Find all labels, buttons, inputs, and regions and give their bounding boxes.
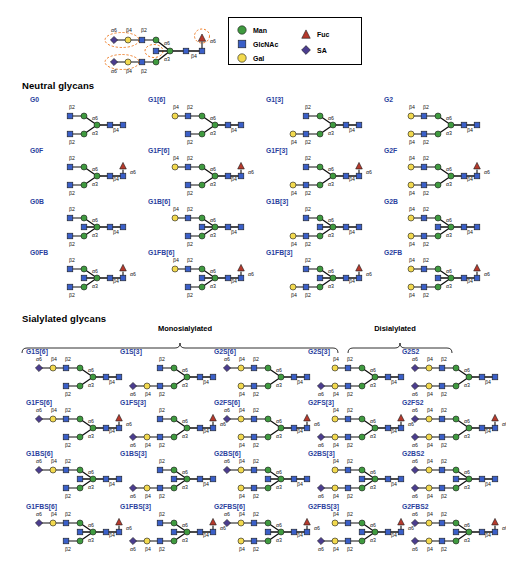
svg-text:α3: α3 — [464, 484, 470, 490]
svg-text:β4: β4 — [297, 379, 303, 385]
svg-text:α3: α3 — [210, 283, 216, 289]
svg-text:α6: α6 — [502, 421, 506, 427]
svg-text:β2: β2 — [441, 391, 447, 397]
glycan-G2BS6[interactable]: G2BS[6]β2β4α6β2β4α6α3β4 — [214, 450, 318, 498]
svg-text:α3: α3 — [182, 484, 188, 490]
glycan-G2S6[interactable]: G2S[6]β2β4α6β2β4α6α3β4 — [214, 348, 318, 396]
svg-text:β2: β2 — [69, 190, 75, 196]
glycan-G2BS3[interactable]: G2BS[3]β2β4β2β4α6α6α3β4 — [308, 450, 412, 498]
glycan-G1S6[interactable]: G1S[6]β2β4α6β2α6α3β4 — [26, 348, 130, 396]
svg-text:β2: β2 — [159, 458, 165, 464]
svg-text:α6: α6 — [92, 217, 98, 223]
svg-text:β2: β2 — [65, 442, 71, 448]
glycan-G2FBS6[interactable]: G2FBS[6]β2β4α6β2β4α6α3β4α6 — [214, 503, 318, 551]
svg-text:β4: β4 — [333, 442, 339, 448]
glycan-G2[interactable]: G2β2β4β2β4α6α3β4 — [384, 96, 488, 144]
svg-text:α6: α6 — [318, 442, 324, 448]
svg-text:β4: β4 — [409, 104, 415, 110]
svg-text:β2: β2 — [347, 546, 353, 552]
svg-text:β2: β2 — [69, 155, 75, 161]
legend-item-sa: SA — [300, 44, 327, 57]
glycan-G2BS2[interactable]: G2BS2β2β4α6β2β4α6α6α3β4 — [402, 450, 506, 498]
svg-text:β4: β4 — [409, 139, 415, 145]
glycan-G2F[interactable]: G2Fβ2β4β2β4α6α3β4α6 — [384, 147, 488, 195]
glycan-G0FB[interactable]: G0FBβ2β2α6α3β4α6 — [30, 249, 134, 297]
svg-text:α6: α6 — [130, 391, 136, 397]
glycan-G2FS6[interactable]: G2FS[6]β2β4α6β2β4α6α3β4α6 — [214, 399, 318, 447]
svg-text:β4: β4 — [113, 127, 119, 133]
glycan-G2FB[interactable]: G2FBβ2β4β2β4α6α3β4α6 — [384, 249, 488, 297]
svg-text:α6: α6 — [130, 271, 136, 277]
glycan-G1B3[interactable]: G1B[3]β2β2β4α6α3β4 — [266, 198, 370, 246]
svg-text:β2: β2 — [423, 257, 429, 263]
legend-label-fuc: Fuc — [317, 31, 329, 38]
glycan-G2FBS2[interactable]: G2FBS2β2β4α6β2β4α6α6α3β4α6 — [402, 503, 506, 551]
glycan-G0B[interactable]: G0Bβ2β2α6α3β4 — [30, 198, 134, 246]
svg-text:β4: β4 — [333, 546, 339, 552]
svg-text:β2: β2 — [187, 257, 193, 263]
glycan-G2B[interactable]: G2Bβ2β4β2β4α6α3β4 — [384, 198, 488, 246]
glycan-G2FS3[interactable]: G2FS[3]β2β4β2β4α6α6α3β4α6 — [308, 399, 412, 447]
svg-text:α6: α6 — [88, 367, 94, 373]
svg-text:β4: β4 — [333, 407, 339, 413]
svg-text:α6: α6 — [111, 68, 117, 74]
svg-text:α6: α6 — [130, 442, 136, 448]
svg-text:α6: α6 — [464, 469, 470, 475]
glycan-G1F3[interactable]: G1F[3]β2β2β4α6α3β4α6 — [266, 147, 370, 195]
svg-text:α3: α3 — [446, 232, 452, 238]
svg-text:β2: β2 — [441, 356, 447, 362]
svg-text:α6: α6 — [502, 525, 506, 531]
svg-text:β4: β4 — [126, 68, 132, 74]
glycan-G1BS3[interactable]: G1BS[3]β2β2β4α6α6α3β4 — [120, 450, 224, 498]
svg-text:α3: α3 — [164, 56, 170, 62]
glycan-G2S3[interactable]: G2S[3]β2β4β2β4α6α6α3β4 — [308, 348, 412, 396]
svg-text:β2: β2 — [253, 493, 259, 499]
svg-text:α6: α6 — [328, 166, 334, 172]
svg-text:β2: β2 — [69, 104, 75, 110]
glycan-G0[interactable]: G0β2β2α6α3β4 — [30, 96, 134, 144]
svg-text:β2: β2 — [305, 292, 311, 298]
glycan-G1B6[interactable]: G1B[6]β2β4β2α6α3β4 — [148, 198, 252, 246]
svg-text:β2: β2 — [441, 493, 447, 499]
svg-text:α3: α3 — [276, 484, 282, 490]
glycan-label: G0B — [30, 198, 44, 205]
svg-text:α6: α6 — [248, 169, 254, 175]
svg-text:α6: α6 — [130, 546, 136, 552]
glycan-G2FS2[interactable]: G2FS2β2β4α6β2β4α6α6α3β4α6 — [402, 399, 506, 447]
glycan-G1FBS6[interactable]: G1FBS[6]β2β4α6β2α6α3β4α6 — [26, 503, 130, 551]
glycan-G1FB6[interactable]: G1FB[6]β2β4β2α6α3β4α6 — [148, 249, 252, 297]
svg-text:α6: α6 — [36, 511, 42, 517]
svg-text:β4: β4 — [391, 428, 397, 434]
glycan-G1S3[interactable]: G1S[3]β2β2β4α6α6α3β4 — [120, 348, 224, 396]
glycan-label: G2FBS[3] — [308, 503, 339, 510]
svg-text:β4: β4 — [427, 511, 433, 517]
svg-text:α6: α6 — [92, 166, 98, 172]
glycan-G1FB3[interactable]: G1FB[3]β2β2β4α6α3β4α6 — [266, 249, 370, 297]
glycan-G2S2[interactable]: G2S2β2β4α6β2β4α6α6α3β4 — [402, 348, 506, 396]
svg-text:β2: β2 — [69, 206, 75, 212]
svg-text:β2: β2 — [423, 190, 429, 196]
svg-text:β4: β4 — [333, 493, 339, 499]
svg-text:β2: β2 — [305, 155, 311, 161]
svg-text:α6: α6 — [328, 268, 334, 274]
glycan-label: G1FS[3] — [120, 399, 146, 406]
svg-text:β2: β2 — [159, 391, 165, 397]
svg-text:β2: β2 — [423, 292, 429, 298]
glycan-G1FS3[interactable]: G1FS[3]β2β2β4α6α6α3β4α6 — [120, 399, 224, 447]
svg-text:α3: α3 — [370, 537, 376, 543]
svg-text:β4: β4 — [113, 278, 119, 284]
svg-text:β4: β4 — [291, 190, 297, 196]
svg-text:β2: β2 — [305, 104, 311, 110]
glycan-G1F6[interactable]: G1F[6]β2β4β2α6α3β4α6 — [148, 147, 252, 195]
glycan-G13[interactable]: G1[3]β2β2β4α6α3β4 — [266, 96, 370, 144]
glycan-G2FBS3[interactable]: G2FBS[3]β2β4β2β4α6α6α3β4α6 — [308, 503, 412, 551]
glycan-G1FS6[interactable]: G1FS[6]β2β4α6β2α6α3β4α6 — [26, 399, 130, 447]
glycan-G16[interactable]: G1[6]β2β4β2α6α3β4 — [148, 96, 252, 144]
glycan-label: G1FS[6] — [26, 399, 52, 406]
svg-text:α3: α3 — [276, 537, 282, 543]
glycan-G1BS6[interactable]: G1BS[6]β2β4α6β2α6α3β4 — [26, 450, 130, 498]
glycan-G1FBS3[interactable]: G1FBS[3]β2β2β4α6α6α3β4α6 — [120, 503, 224, 551]
glycan-G0F[interactable]: G0Fβ2β2α6α3β4α6 — [30, 147, 134, 195]
svg-text:β2: β2 — [305, 206, 311, 212]
